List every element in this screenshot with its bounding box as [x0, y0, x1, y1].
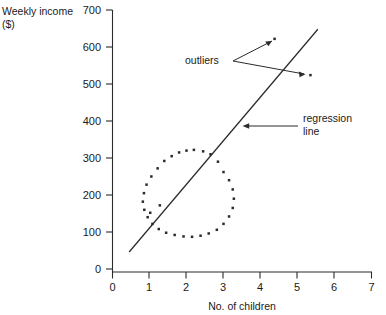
data-point-21: [199, 234, 202, 237]
data-point-7: [163, 160, 166, 163]
data-point-10: [145, 183, 148, 186]
data-point-6: [170, 155, 173, 158]
data-point-19: [182, 235, 185, 238]
regression-arrowhead: [243, 123, 250, 129]
data-point-13: [143, 209, 146, 212]
y-axis-tick-labels: 700 600 500 400 300 200 100 0: [83, 4, 101, 275]
data-point-20: [191, 236, 194, 239]
regression-label-line1: regression: [303, 112, 352, 124]
data-point-17: [165, 231, 168, 234]
data-point-8: [156, 167, 159, 170]
data-point-11: [143, 192, 146, 195]
x-tick-label-7: 7: [368, 281, 374, 293]
y-tick-label-500: 500: [83, 78, 101, 90]
data-point-32: [159, 204, 162, 207]
x-tick-label-3: 3: [220, 281, 226, 293]
outliers-annotation: outliers: [185, 41, 306, 77]
data-point-27: [233, 197, 236, 200]
data-point-16: [158, 228, 161, 231]
y-axis-title-line1: Weekly income: [2, 5, 73, 17]
x-tick-label-6: 6: [331, 281, 337, 293]
y-tick-label-300: 300: [83, 152, 101, 164]
outlier-1: [273, 38, 276, 41]
data-point-29: [228, 179, 231, 182]
outliers-leader-2: [233, 61, 304, 74]
data-point-31: [217, 160, 220, 163]
outliers-leader-1: [233, 41, 272, 61]
y-tick-label-100: 100: [83, 226, 101, 238]
x-tick-label-2: 2: [183, 281, 189, 293]
x-tick-label-4: 4: [257, 281, 263, 293]
x-tick-label-0: 0: [109, 281, 115, 293]
data-point-18: [173, 234, 176, 237]
outliers-arrowhead-2: [299, 72, 306, 78]
data-point-1: [185, 149, 188, 152]
x-tick-label-1: 1: [146, 281, 152, 293]
regression-label-line2: line: [303, 125, 320, 137]
y-tick-label-600: 600: [83, 41, 101, 53]
y-axis-title: Weekly income ($): [2, 5, 73, 30]
data-point-33: [149, 212, 152, 215]
outlier-2: [309, 74, 312, 77]
y-tick-label-400: 400: [83, 115, 101, 127]
outliers-label: outliers: [185, 54, 219, 66]
scatter-chart: 700 600 500 400 300 200 100 0: [0, 0, 386, 315]
x-axis-title: No. of children: [208, 300, 276, 312]
x-axis-ticks: [113, 272, 372, 279]
data-point-2: [193, 149, 196, 152]
y-tick-label-700: 700: [83, 4, 101, 16]
data-points-layer: [142, 149, 236, 238]
data-point-24: [222, 223, 225, 226]
data-point-28: [232, 188, 235, 191]
y-axis: 700 600 500 400 300 200 100 0: [83, 4, 113, 275]
data-point-26: [232, 207, 235, 210]
data-point-30: [222, 171, 225, 174]
data-point-5: [178, 151, 181, 154]
y-axis-title-line2: ($): [2, 18, 15, 30]
chart-canvas: 700 600 500 400 300 200 100 0: [0, 0, 386, 315]
y-axis-ticks: [106, 10, 113, 269]
data-point-12: [142, 200, 145, 203]
data-point-23: [216, 229, 219, 232]
data-point-25: [228, 215, 231, 218]
x-tick-label-5: 5: [294, 281, 300, 293]
y-tick-label-200: 200: [83, 189, 101, 201]
data-point-3: [202, 150, 205, 153]
data-point-14: [146, 216, 149, 219]
x-axis: 0 1 2 3 4 5 6 7: [109, 272, 374, 293]
data-point-9: [150, 175, 153, 178]
y-tick-label-0: 0: [95, 263, 101, 275]
regression-line: [129, 29, 318, 252]
x-axis-tick-labels: 0 1 2 3 4 5 6 7: [109, 281, 374, 293]
regression-annotation: regression line: [243, 112, 353, 137]
data-point-22: [207, 232, 210, 235]
